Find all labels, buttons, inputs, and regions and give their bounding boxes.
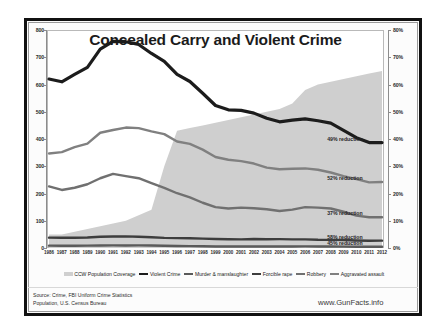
legend-item[interactable]: Murder & manslaughter (184, 271, 248, 277)
y-tick-label: 0% (393, 245, 400, 251)
x-tick-label: 1999 (210, 250, 220, 255)
y-tick-label: 70% (393, 54, 403, 60)
y-tick-label: 200 (36, 191, 44, 197)
legend-label: CCW Population Coverage (74, 271, 135, 277)
x-tick-label: 2008 (326, 250, 336, 255)
series-area-ccw-population-coverage (49, 71, 382, 248)
x-tick-label: 1994 (146, 250, 156, 255)
x-tick-label: 2012 (377, 250, 387, 255)
legend-swatch-icon (64, 272, 73, 275)
annotation-37-reduction: 37% reduction (327, 210, 362, 216)
y-tick-mark (44, 248, 47, 249)
y-tick-mark (388, 139, 391, 140)
y-tick-label: 600 (36, 82, 44, 88)
legend-swatch-icon (296, 273, 305, 276)
x-tick-label: 2003 (262, 250, 272, 255)
page-title: Concealed Carry and Violent Crime (47, 31, 384, 49)
y-tick-label: 50% (393, 109, 403, 115)
legend-swatch-icon (330, 273, 339, 276)
annotation-49-reduction: 49% reduction (327, 136, 362, 142)
legend-item[interactable]: Violent Crime (139, 271, 180, 277)
y-tick-label: 20% (393, 191, 403, 197)
y-tick-label: 80% (393, 27, 403, 33)
chart-screenshot: 0100200300400500600700800 0%10%20%30%40%… (0, 0, 439, 333)
chart-legend: CCW Population CoverageViolent CrimeMurd… (33, 268, 415, 280)
y-tick-label: 700 (36, 54, 44, 60)
x-tick-label: 1990 (95, 250, 105, 255)
legend-item[interactable]: CCW Population Coverage (64, 271, 136, 277)
legend-item[interactable]: Forcible rape (252, 271, 292, 277)
annotation-52-reduction: 52% reduction (327, 175, 362, 181)
legend-label: Violent Crime (150, 271, 180, 277)
y-tick-mark (388, 85, 391, 86)
x-tick-label: 1993 (134, 250, 144, 255)
y-tick-label: 100 (36, 218, 44, 224)
legend-item[interactable]: Aggravated assault (330, 271, 384, 277)
legend-label: Forcible rape (263, 271, 293, 277)
legend-label: Aggravated assault (341, 271, 385, 277)
footer-divider (28, 287, 418, 288)
x-tick-label: 1998 (198, 250, 208, 255)
x-tick-label: 2006 (300, 250, 310, 255)
y-tick-label: 40% (393, 136, 403, 142)
x-tick-label: 2007 (313, 250, 323, 255)
y-tick-label: 30% (393, 163, 403, 169)
x-tick-label: 1996 (172, 250, 182, 255)
legend-label: Murder & manslaughter (195, 271, 248, 277)
x-tick-label: 1991 (108, 250, 118, 255)
y-axis-right: 0%10%20%30%40%50%60%70%80% (386, 24, 418, 254)
x-axis: 1986198719881989199019911992199319941995… (47, 250, 384, 260)
x-tick-label: 2001 (236, 250, 246, 255)
x-tick-label: 2011 (364, 250, 374, 255)
x-tick-label: 2005 (287, 250, 297, 255)
legend-swatch-icon (139, 273, 148, 276)
y-tick-mark (388, 57, 391, 58)
y-tick-label: 500 (36, 109, 44, 115)
legend-swatch-icon (252, 273, 261, 276)
x-tick-label: 1986 (44, 250, 54, 255)
x-tick-label: 2010 (351, 250, 361, 255)
x-tick-label: 2004 (275, 250, 285, 255)
y-tick-label: 300 (36, 163, 44, 169)
legend-item[interactable]: Robbery (296, 271, 326, 277)
annotation-45-reduction: 45% reduction (327, 240, 362, 246)
y-tick-label: 800 (36, 27, 44, 33)
y-tick-label: 10% (393, 218, 403, 224)
website-credit: www.GunFacts.info (318, 298, 383, 307)
legend-label: Robbery (307, 271, 326, 277)
y-tick-mark (388, 194, 391, 195)
y-tick-mark (388, 166, 391, 167)
y-tick-label: 60% (393, 82, 403, 88)
y-tick-label: 400 (36, 136, 44, 142)
y-tick-mark (388, 248, 391, 249)
legend-swatch-icon (184, 273, 193, 276)
y-tick-mark (388, 30, 391, 31)
y-axis-left: 0100200300400500600700800 (28, 24, 47, 254)
x-tick-label: 1989 (82, 250, 92, 255)
x-tick-label: 1997 (185, 250, 195, 255)
source-line-2: Population, U.S. Census Bureau (33, 300, 223, 308)
source-note: Source: Crime, FBI Uniform Crime Statist… (33, 292, 223, 307)
x-tick-label: 2000 (223, 250, 233, 255)
source-line-1: Source: Crime, FBI Uniform Crime Statist… (33, 292, 223, 300)
x-tick-label: 2009 (339, 250, 349, 255)
x-tick-label: 1987 (57, 250, 67, 255)
y-tick-mark (388, 221, 391, 222)
x-tick-label: 1988 (70, 250, 80, 255)
x-tick-label: 1995 (159, 250, 169, 255)
x-tick-label: 2002 (249, 250, 259, 255)
y-tick-mark (388, 112, 391, 113)
x-tick-label: 1992 (121, 250, 131, 255)
